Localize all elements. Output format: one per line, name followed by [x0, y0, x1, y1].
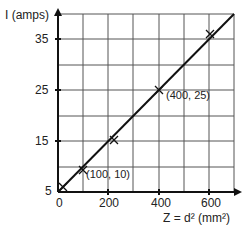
x-tick-400: 400 [151, 196, 171, 210]
best-fit-line [58, 14, 234, 192]
annotation-100-10: (100, 10) [86, 168, 130, 180]
y-tick-15: 15 [35, 134, 49, 148]
y-tick-35: 35 [35, 32, 49, 46]
x-tick-200: 200 [99, 196, 119, 210]
x-tick-0: 0 [56, 196, 63, 210]
x-axis-label: Z = d² (mm²) [163, 211, 230, 225]
y-tick-25: 25 [35, 83, 49, 97]
y-tick-5: 5 [45, 184, 52, 198]
chart: I (amps) 35 25 15 5 0 200 400 600 Z = d²… [0, 0, 245, 230]
y-axis-label: I (amps) [5, 8, 49, 22]
x-tick-600: 600 [201, 196, 221, 210]
annotation-400-25: (400, 25) [166, 89, 210, 101]
